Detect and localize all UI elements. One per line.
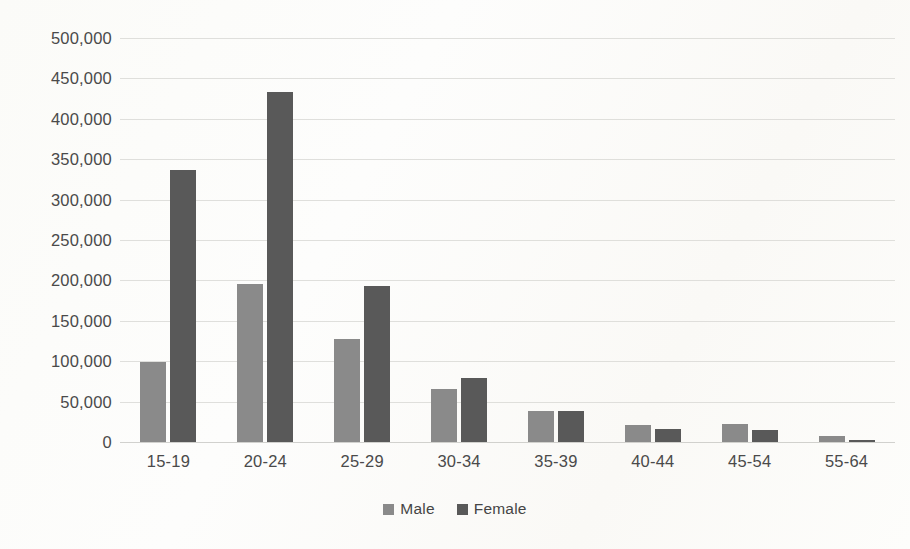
x-axis-tick-label: 35-39: [508, 452, 605, 471]
bar-female-55-64[interactable]: [849, 440, 875, 442]
bar-female-40-44[interactable]: [655, 429, 681, 442]
y-axis-tick-label: 500,000: [8, 29, 112, 48]
legend-swatch-icon: [457, 504, 468, 515]
x-axis-tick-label: 40-44: [604, 452, 701, 471]
bar-group: [217, 38, 314, 442]
bar-group: [604, 38, 701, 442]
legend-swatch-icon: [383, 504, 394, 515]
y-axis: 050,000100,000150,000200,000250,000300,0…: [0, 38, 112, 442]
y-axis-tick-label: 450,000: [8, 69, 112, 88]
y-axis-tick-label: 400,000: [8, 109, 112, 128]
bar-male-55-64[interactable]: [819, 436, 845, 442]
plot-area: [120, 38, 895, 442]
x-axis-tick-label: 55-64: [798, 452, 895, 471]
y-axis-tick-label: 100,000: [8, 352, 112, 371]
bar-male-15-19[interactable]: [140, 362, 166, 442]
bar-female-25-29[interactable]: [364, 286, 390, 442]
legend-label: Male: [400, 500, 434, 518]
bar-female-30-34[interactable]: [461, 378, 487, 442]
axis-baseline: [120, 442, 895, 443]
bar-male-20-24[interactable]: [237, 284, 263, 442]
bar-group: [411, 38, 508, 442]
x-axis: 15-1920-2425-2930-3435-3940-4445-5455-64: [120, 452, 895, 482]
chart-legend: MaleFemale: [0, 500, 910, 518]
x-axis-tick-label: 20-24: [217, 452, 314, 471]
y-axis-tick-label: 150,000: [8, 311, 112, 330]
x-axis-tick-label: 45-54: [701, 452, 798, 471]
legend-label: Female: [474, 500, 527, 518]
bar-male-40-44[interactable]: [625, 425, 651, 442]
legend-item-female[interactable]: Female: [457, 500, 527, 518]
bar-male-30-34[interactable]: [431, 389, 457, 442]
bar-male-45-54[interactable]: [722, 424, 748, 442]
x-axis-tick-label: 30-34: [411, 452, 508, 471]
bar-female-20-24[interactable]: [267, 92, 293, 442]
y-axis-tick-label: 0: [8, 433, 112, 452]
bar-female-45-54[interactable]: [752, 430, 778, 442]
bar-group: [120, 38, 217, 442]
x-axis-tick-label: 15-19: [120, 452, 217, 471]
bar-chart: 050,000100,000150,000200,000250,000300,0…: [0, 0, 910, 549]
bar-group: [508, 38, 605, 442]
bar-female-15-19[interactable]: [170, 170, 196, 442]
bar-group: [798, 38, 895, 442]
bar-male-25-29[interactable]: [334, 339, 360, 442]
bar-male-35-39[interactable]: [528, 411, 554, 442]
bar-female-35-39[interactable]: [558, 411, 584, 442]
y-axis-tick-label: 300,000: [8, 190, 112, 209]
y-axis-tick-label: 350,000: [8, 150, 112, 169]
y-axis-tick-label: 250,000: [8, 231, 112, 250]
legend-item-male[interactable]: Male: [383, 500, 434, 518]
x-axis-tick-label: 25-29: [314, 452, 411, 471]
y-axis-tick-label: 200,000: [8, 271, 112, 290]
bar-group: [314, 38, 411, 442]
y-axis-tick-label: 50,000: [8, 392, 112, 411]
bar-group: [701, 38, 798, 442]
